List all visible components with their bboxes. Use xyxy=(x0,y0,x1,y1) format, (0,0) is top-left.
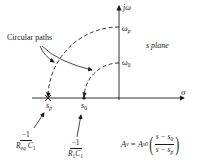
pointer-to-inner-path xyxy=(42,46,92,70)
eq-denominator: s − sp xyxy=(156,145,173,156)
omega-0-sub: 0 xyxy=(128,62,131,68)
s-plane-title: s plane xyxy=(146,42,169,50)
pole-fraction-numerator: −1 xyxy=(20,131,32,141)
zero-marker xyxy=(82,96,85,99)
s-p-sub: p xyxy=(49,105,52,111)
s-plane-title-text: s plane xyxy=(146,41,169,50)
eq-numerator: s − s0 xyxy=(155,133,174,145)
omega-0-label: ω0 xyxy=(122,59,130,69)
eq-fraction: s − s0 s − sp xyxy=(155,133,174,155)
pointer-to-zero xyxy=(77,115,81,137)
zero-den-c-sub: 1 xyxy=(80,153,83,159)
zero-fraction-denominator: R1C1 xyxy=(68,149,83,160)
eq-open-paren: ( xyxy=(149,134,153,154)
outer-circular-path xyxy=(48,27,119,98)
pole-fraction-denominator: Req C1 xyxy=(16,141,35,152)
inner-circular-path xyxy=(84,63,119,98)
s-0-label: s0 xyxy=(81,102,87,112)
pole-den-r-sub: eq xyxy=(21,145,26,151)
pole-fraction: −1 Req C1 xyxy=(16,131,35,151)
eq-coef-sub: v0 xyxy=(143,141,148,147)
omega-p-sub: p xyxy=(128,28,131,34)
omega-p-label: ωp xyxy=(122,25,130,35)
s-0-sub: 0 xyxy=(84,105,87,111)
pole-den-c-sub: 1 xyxy=(33,145,36,151)
sigma-axis-label: σ xyxy=(181,88,185,97)
zero-fraction: −1 R1C1 xyxy=(68,139,83,159)
eq-equals: = xyxy=(129,139,138,149)
s-p-label: sp xyxy=(46,102,52,112)
jw-axis-label: jω xyxy=(123,4,131,12)
eq-denominator-sub: p xyxy=(170,149,173,155)
gain-equation: Av = Av0 ( s − s0 s − sp ) xyxy=(121,133,181,155)
eq-numerator-text: s − s xyxy=(156,132,171,141)
eq-denominator-text: s − s xyxy=(156,145,171,154)
pointer-to-pole xyxy=(34,113,44,128)
eq-numerator-sub: 0 xyxy=(170,136,173,142)
eq-close-paren: ) xyxy=(176,134,180,154)
circular-paths-label: Circular paths xyxy=(7,34,52,42)
zero-fraction-numerator: −1 xyxy=(70,139,82,149)
